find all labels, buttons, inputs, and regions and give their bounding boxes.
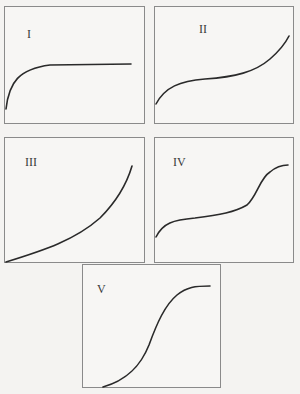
curve-V bbox=[83, 265, 222, 389]
panel-IV: IV bbox=[154, 137, 294, 263]
curve-IV bbox=[155, 138, 295, 264]
panel-V: V bbox=[82, 264, 221, 388]
panel-I: I bbox=[4, 6, 145, 124]
curve-II bbox=[155, 7, 295, 125]
curve-III bbox=[5, 138, 146, 264]
panel-II: II bbox=[154, 6, 294, 124]
curve-I bbox=[5, 7, 146, 125]
panel-III: III bbox=[4, 137, 145, 263]
